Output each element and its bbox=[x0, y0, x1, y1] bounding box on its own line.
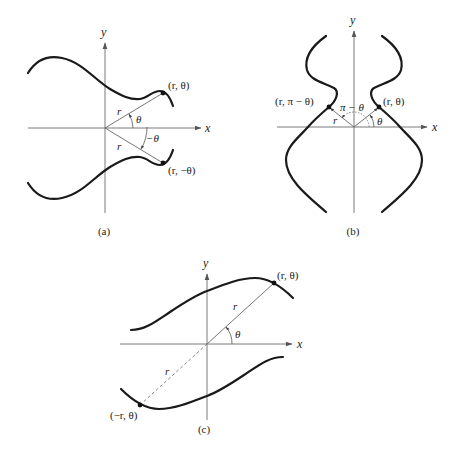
r-label-lower: r bbox=[117, 140, 122, 152]
point-label-r-pi-minus-theta: (r, π − θ) bbox=[275, 95, 314, 108]
polar-curve-lower bbox=[28, 150, 173, 199]
r-label-lower: r bbox=[165, 365, 170, 377]
ray-neg-r-theta bbox=[140, 344, 207, 405]
panel-caption-c: (c) bbox=[198, 423, 211, 436]
r-label-upper: r bbox=[117, 105, 122, 117]
angle-arc-pi-minus-theta bbox=[342, 112, 369, 127]
panel-c: x y r θ r (r, θ) (−r, θ) (c) bbox=[110, 256, 303, 436]
r-label-upper: r bbox=[233, 300, 238, 312]
angle-arc-theta bbox=[226, 327, 232, 344]
point-r-theta bbox=[377, 105, 382, 110]
point-label-r-neg-theta: (r, −θ) bbox=[168, 164, 196, 177]
point-r-neg-theta bbox=[161, 161, 166, 166]
point-r-theta bbox=[161, 91, 166, 96]
point-label-r-theta: (r, θ) bbox=[168, 79, 190, 92]
angle-arc-theta bbox=[370, 115, 374, 127]
x-axis-label: x bbox=[204, 121, 211, 135]
pi-minus-theta-label: π − θ bbox=[340, 101, 364, 113]
x-axis-label: x bbox=[431, 120, 438, 134]
polar-curve-left bbox=[286, 36, 337, 212]
theta-label: θ bbox=[136, 113, 142, 125]
polar-curve-upper bbox=[131, 278, 293, 330]
y-axis-label: y bbox=[100, 25, 107, 39]
panel-a: x y r r θ −θ (r, θ) (r, −θ) (a) bbox=[28, 25, 211, 238]
panel-b: x y π − θ r θ (r, π − θ) (r, θ) (b) bbox=[275, 13, 438, 238]
angle-arc-theta bbox=[129, 114, 133, 128]
theta-label: θ bbox=[377, 115, 383, 127]
point-label-neg-r-theta: (−r, θ) bbox=[110, 409, 138, 422]
panel-caption-b: (b) bbox=[347, 225, 360, 238]
y-axis-label: y bbox=[349, 13, 356, 27]
theta-label: θ bbox=[235, 328, 241, 340]
point-neg-r-theta bbox=[138, 403, 143, 408]
point-label-r-theta: (r, θ) bbox=[383, 95, 405, 108]
ray-r-theta bbox=[207, 283, 274, 344]
x-axis-label: x bbox=[296, 337, 303, 351]
point-label-r-theta: (r, θ) bbox=[277, 269, 299, 282]
polar-curve-lower bbox=[121, 357, 283, 409]
point-r-pi-minus-theta bbox=[327, 105, 332, 110]
polar-curve-upper bbox=[28, 57, 173, 106]
symmetry-figure: x y r r θ −θ (r, θ) (r, −θ) (a) x y bbox=[0, 0, 462, 463]
neg-theta-label: −θ bbox=[146, 132, 159, 144]
r-label-left: r bbox=[333, 114, 338, 126]
panel-caption-a: (a) bbox=[98, 225, 111, 238]
point-r-theta bbox=[272, 281, 277, 286]
y-axis-label: y bbox=[202, 256, 209, 270]
